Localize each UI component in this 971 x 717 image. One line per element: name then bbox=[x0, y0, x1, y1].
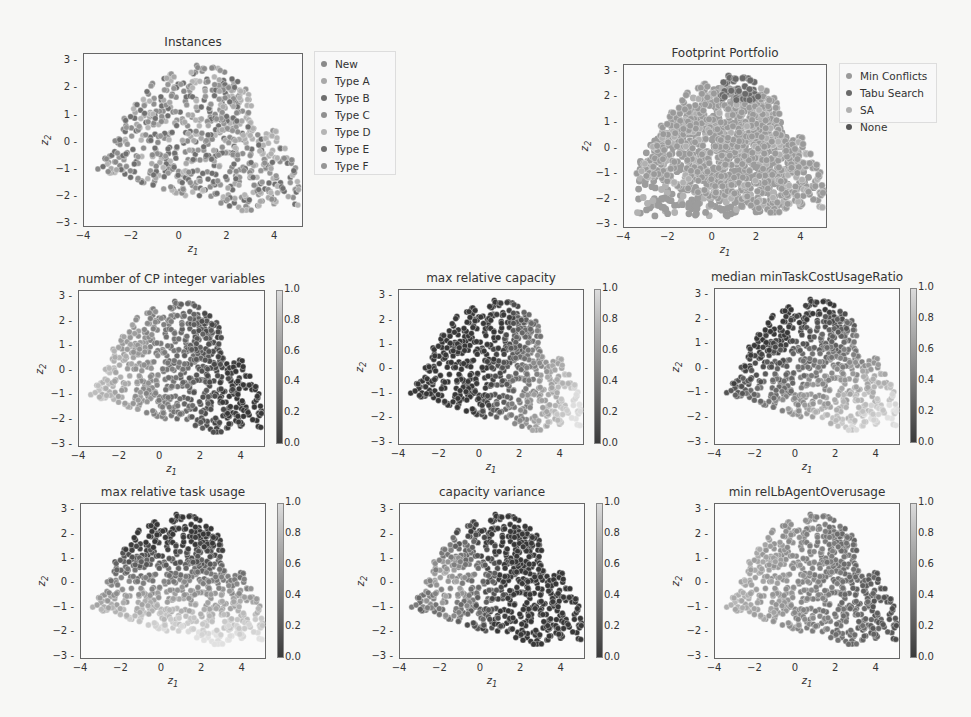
y-axis-label: z2 bbox=[355, 576, 369, 587]
x-tick-label: −4 bbox=[71, 450, 86, 461]
colorbar-tick-label: 0.8 bbox=[284, 314, 300, 325]
y-tick-label: −1 - bbox=[595, 167, 617, 178]
y-tick-label: 1 - bbox=[370, 338, 392, 349]
x-tick-label: 0 bbox=[175, 230, 181, 241]
y-tick-label: −1 - bbox=[55, 163, 77, 174]
y-tick-label: 3 - bbox=[595, 65, 617, 76]
x-tick-label: −4 bbox=[391, 448, 406, 459]
y-tick-label: 2 - bbox=[50, 315, 72, 326]
x-axis-label: z1 bbox=[486, 461, 497, 475]
x-tick-label: 0 bbox=[476, 448, 482, 459]
y-tick-label: 2 - bbox=[55, 81, 77, 92]
y-tick-label: −3 - bbox=[55, 217, 77, 228]
x-tick-label: 4 bbox=[557, 448, 563, 459]
legend-label: Type F bbox=[335, 160, 369, 172]
y-tick-label: −1 - bbox=[52, 601, 74, 612]
legend-item: Type F bbox=[321, 157, 389, 174]
legend-label: Type A bbox=[335, 75, 370, 87]
legend-item: SA bbox=[846, 101, 930, 118]
x-tick-label: −2 bbox=[113, 662, 128, 673]
x-tick-label: 2 bbox=[516, 448, 522, 459]
y-tick-label: −2 - bbox=[50, 413, 72, 424]
x-tick-label: −2 bbox=[431, 448, 446, 459]
x-tick-label: 4 bbox=[873, 662, 879, 673]
y-tick-label: −1 - bbox=[686, 386, 708, 397]
colorbar-tick-label: 0.6 bbox=[285, 558, 301, 569]
colorbar-tick-label: 0.4 bbox=[284, 375, 300, 386]
y-tick-label: −2 - bbox=[686, 411, 708, 422]
x-tick-label: −2 bbox=[111, 450, 126, 461]
panel-title: Footprint Portfolio bbox=[671, 46, 778, 60]
x-tick-label: 2 bbox=[832, 448, 838, 459]
legend-marker-icon bbox=[321, 129, 327, 135]
colorbar bbox=[596, 503, 603, 658]
legend-item: Min Conflicts bbox=[846, 67, 930, 84]
y-tick-label: 0 - bbox=[50, 364, 72, 375]
y-tick-label: −1 - bbox=[370, 387, 392, 398]
y-tick-label: −3 - bbox=[371, 650, 393, 661]
x-tick-label: −2 bbox=[747, 448, 762, 459]
x-tick-label: −2 bbox=[432, 662, 447, 673]
colorbar-tick-label: 0.2 bbox=[604, 620, 620, 631]
colorbar-tick-label: 0.2 bbox=[918, 620, 934, 631]
y-axis-label: z2 bbox=[670, 576, 684, 587]
y-tick-label: −2 - bbox=[370, 411, 392, 422]
colorbar-tick-label: 0.4 bbox=[918, 374, 934, 385]
legend-label: Type B bbox=[335, 92, 370, 104]
y-tick-label: 3 - bbox=[686, 503, 708, 514]
y-tick-label: 0 - bbox=[595, 142, 617, 153]
panel-title: max relative capacity bbox=[426, 271, 556, 285]
x-axis-label: z1 bbox=[188, 243, 199, 257]
y-tick-label: −2 - bbox=[55, 190, 77, 201]
x-tick-label: 0 bbox=[158, 662, 164, 673]
x-tick-label: 0 bbox=[792, 448, 798, 459]
y-tick-label: 0 - bbox=[370, 362, 392, 373]
y-tick-label: −3 - bbox=[595, 218, 617, 229]
y-tick-label: 1 - bbox=[371, 552, 393, 563]
x-axis-label: z1 bbox=[720, 244, 731, 258]
y-tick-label: −3 - bbox=[686, 650, 708, 661]
legend-label: None bbox=[860, 121, 887, 133]
legend-marker-icon bbox=[321, 112, 327, 118]
x-tick-label: −4 bbox=[616, 231, 631, 242]
x-tick-label: 4 bbox=[797, 231, 803, 242]
y-tick-label: −3 - bbox=[52, 650, 74, 661]
plot-area bbox=[714, 288, 900, 445]
y-tick-label: −3 - bbox=[370, 436, 392, 447]
colorbar-tick-label: 1.0 bbox=[604, 496, 620, 507]
y-tick-label: −1 - bbox=[50, 388, 72, 399]
y-tick-label: 2 - bbox=[686, 313, 708, 324]
colorbar-tick-label: 1.0 bbox=[285, 496, 301, 507]
y-tick-label: 3 - bbox=[370, 289, 392, 300]
colorbar bbox=[276, 290, 283, 444]
colorbar-tick-label: 0.8 bbox=[918, 527, 934, 538]
colorbar bbox=[910, 503, 917, 658]
y-tick-label: 2 - bbox=[371, 528, 393, 539]
x-tick-label: 2 bbox=[753, 231, 759, 242]
legend-item: New bbox=[321, 55, 389, 72]
colorbar-tick-label: 0.8 bbox=[285, 527, 301, 538]
colorbar-tick-label: 0.2 bbox=[285, 620, 301, 631]
legend-marker-icon bbox=[321, 78, 327, 84]
y-tick-label: −2 - bbox=[686, 625, 708, 636]
colorbar-tick-label: 0.0 bbox=[285, 651, 301, 662]
legend-marker-icon bbox=[321, 163, 327, 169]
legend: Min ConflictsTabu SearchSANone bbox=[839, 63, 937, 123]
x-tick-label: 4 bbox=[558, 662, 564, 673]
legend-item: Type C bbox=[321, 106, 389, 123]
x-axis-label: z1 bbox=[802, 675, 813, 689]
x-axis-label: z1 bbox=[487, 675, 498, 689]
x-tick-label: −2 bbox=[123, 230, 138, 241]
colorbar-tick-label: 0.6 bbox=[602, 344, 618, 355]
y-axis-label: z2 bbox=[39, 135, 53, 146]
legend-marker-icon bbox=[846, 107, 852, 113]
legend-label: Type E bbox=[335, 143, 369, 155]
colorbar-tick-label: 1.0 bbox=[602, 282, 618, 293]
y-tick-label: −1 - bbox=[371, 601, 393, 612]
y-tick-label: −3 - bbox=[50, 438, 72, 449]
x-tick-label: 2 bbox=[223, 230, 229, 241]
legend-label: SA bbox=[860, 104, 874, 116]
x-axis-label: z1 bbox=[168, 675, 179, 689]
x-axis-label: z1 bbox=[802, 461, 813, 475]
legend-label: New bbox=[335, 58, 358, 70]
